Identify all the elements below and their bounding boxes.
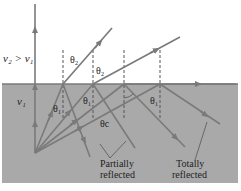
theta-c-label: θc — [100, 118, 110, 129]
totally-reflected-label-1: Totally — [176, 158, 204, 169]
medium-speed-label: v₁ — [17, 95, 26, 107]
theta-2-label-b: θ₂ — [96, 65, 104, 76]
partially-reflected-label-1: Partially — [100, 158, 134, 169]
totally-reflected-label-2: reflected — [172, 169, 207, 180]
refraction-diagram: v₂ > v₁ v₁ θ₂ θ₂ θ₁ θ₁ θ₁ θc Partially r… — [0, 0, 241, 191]
partially-reflected-label-2: reflected — [100, 169, 135, 180]
theta-1-label-a: θ₁ — [53, 103, 61, 114]
theta-2-label-a: θ₂ — [70, 54, 78, 65]
speed-relation-label: v₂ > v₁ — [3, 52, 34, 64]
theta-1-label-b: θ₁ — [83, 95, 91, 106]
theta-1-label-c: θ₁ — [150, 95, 158, 106]
